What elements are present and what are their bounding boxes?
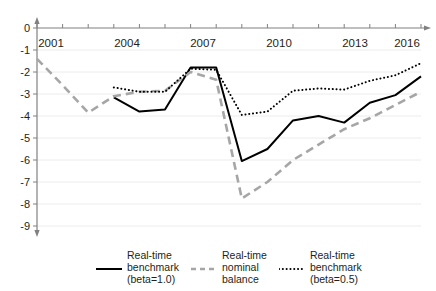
- x-axis-arrowhead: [424, 25, 431, 30]
- y-axis-arrowhead: [34, 230, 39, 237]
- legend-label: Real-time benchmark (beta=1.0): [127, 249, 179, 286]
- legend-label: Real-time benchmark (beta=0.5): [310, 249, 362, 286]
- legend-entry: Real-time benchmark (beta=0.5): [279, 249, 362, 286]
- plot-area: [0, 0, 436, 291]
- line-chart: 0 -1 -2 -3 -4 -5 -6 -7 -8 -9 2001 2004 2…: [0, 0, 436, 291]
- legend-label: Real-time nominal balance: [222, 249, 267, 286]
- chart-legend: Real-time benchmark (beta=1.0)Real-time …: [96, 249, 416, 291]
- data-series-layer: [37, 59, 421, 199]
- legend-entry: Real-time benchmark (beta=1.0): [96, 249, 179, 286]
- y-axis-arrowhead: [34, 17, 39, 24]
- legend-line-sample-dashed: [191, 261, 217, 273]
- legend-line-sample-dotted: [279, 261, 305, 273]
- series-line-2: [114, 63, 421, 115]
- legend-entry: Real-time nominal balance: [191, 249, 267, 286]
- legend-line-sample-solid: [96, 261, 122, 273]
- series-line-1: [37, 59, 421, 199]
